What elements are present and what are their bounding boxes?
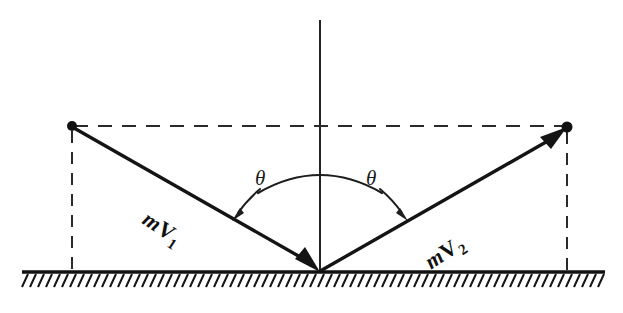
right-angle-leader-line [380, 189, 402, 213]
physics-figure: mV1 mV2 θ θ [0, 0, 623, 313]
left-angle-leader-line [238, 189, 260, 213]
left-angle-label: θ [255, 166, 265, 191]
left-node-dot [67, 121, 77, 131]
figure-canvas [0, 0, 623, 313]
incoming-momentum-vector [74, 128, 309, 262]
incoming-vector-arrowhead [295, 247, 320, 272]
ground-hatching [22, 274, 604, 287]
right-node-dot [562, 122, 573, 133]
right-angle-label: θ [366, 166, 376, 191]
right-angle-leader-arrowhead [396, 208, 408, 221]
left-angle-leader-arrowhead [232, 208, 244, 221]
